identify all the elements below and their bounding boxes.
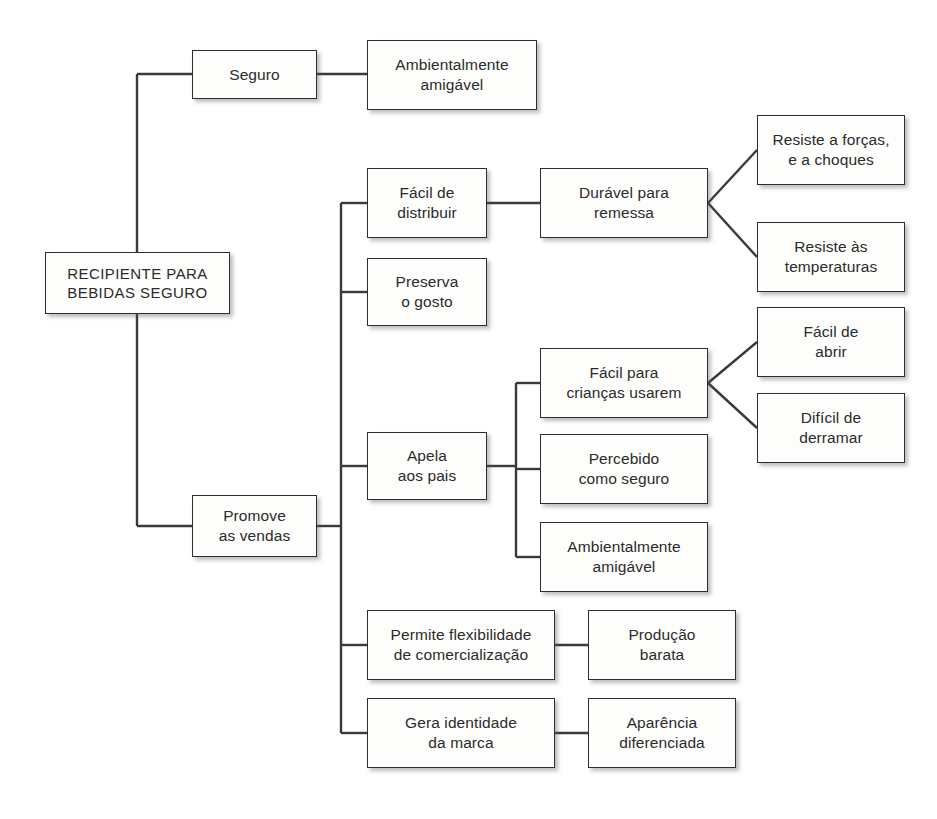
node-preserva-o-gosto[interactable]: Preserva o gosto (367, 258, 487, 326)
node-label: Permite flexibilidade de comercialização (391, 625, 532, 665)
node-label: Preserva o gosto (396, 272, 459, 312)
node-facil-de-abrir[interactable]: Fácil de abrir (757, 307, 905, 377)
node-label: Fácil de distribuir (397, 183, 457, 223)
node-label: Fácil de abrir (803, 322, 858, 362)
connector-duravel-to-temperaturas (708, 203, 757, 257)
node-promove-as-vendas[interactable]: Promove as vendas (192, 495, 317, 557)
node-resiste-as-temperaturas[interactable]: Resiste às temperaturas (757, 222, 905, 292)
node-label: Ambientalmente amigável (395, 55, 508, 95)
node-facil-de-distribuir[interactable]: Fácil de distribuir (367, 168, 487, 238)
node-root[interactable]: RECIPIENTE PARA BEBIDAS SEGURO (45, 252, 230, 314)
node-label: Promove as vendas (219, 506, 291, 546)
node-aparencia-diferenciada[interactable]: Aparência diferenciada (588, 698, 736, 768)
node-label: Seguro (229, 65, 280, 85)
diagram-canvas: RECIPIENTE PARA BEBIDAS SEGURO Seguro Pr… (0, 0, 937, 819)
node-label: Aparência diferenciada (619, 713, 705, 753)
connector-duravel-to-forcas (708, 150, 757, 203)
node-percebido-como-seguro[interactable]: Percebido como seguro (540, 434, 708, 504)
node-producao-barata[interactable]: Produção barata (588, 610, 736, 680)
node-label: Difícil de derramar (799, 408, 863, 448)
node-apela-aos-pais[interactable]: Apela aos pais (367, 432, 487, 500)
node-ambientalmente-amigavel-mid[interactable]: Ambientalmente amigável (540, 522, 708, 592)
node-dificil-de-derramar[interactable]: Difícil de derramar (757, 393, 905, 463)
node-facil-para-criancas-usarem[interactable]: Fácil para crianças usarem (540, 348, 708, 418)
node-label: Resiste a forças, e a choques (772, 130, 889, 170)
node-label: Fácil para crianças usarem (566, 363, 681, 403)
connector-criancas-to-derramar (708, 383, 757, 428)
node-duravel-para-remessa[interactable]: Durável para remessa (540, 168, 708, 238)
node-gera-identidade-da-marca[interactable]: Gera identidade da marca (367, 698, 555, 768)
node-ambientalmente-amigavel-top[interactable]: Ambientalmente amigável (367, 40, 537, 110)
node-label: RECIPIENTE PARA BEBIDAS SEGURO (67, 264, 208, 302)
node-seguro[interactable]: Seguro (192, 50, 317, 99)
node-label: Ambientalmente amigável (567, 537, 680, 577)
node-label: Percebido como seguro (579, 449, 670, 489)
node-resiste-a-forcas-e-a-choques[interactable]: Resiste a forças, e a choques (757, 115, 905, 185)
node-label: Resiste às temperaturas (785, 237, 878, 277)
node-label: Durável para remessa (579, 183, 669, 223)
node-permite-flexibilidade[interactable]: Permite flexibilidade de comercialização (367, 610, 555, 680)
node-label: Gera identidade da marca (405, 713, 517, 753)
connector-criancas-to-abrir (708, 342, 757, 383)
node-label: Produção barata (628, 625, 695, 665)
node-label: Apela aos pais (398, 446, 457, 486)
